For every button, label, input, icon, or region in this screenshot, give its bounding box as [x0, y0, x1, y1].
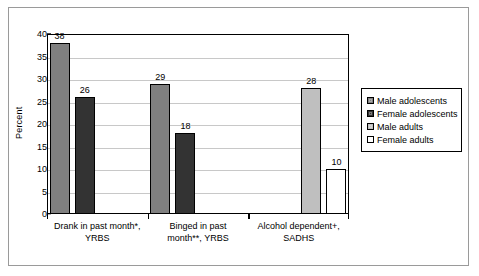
y-tick-label: 5	[29, 187, 47, 196]
x-label-line: Alcohol dependent+,	[257, 221, 339, 231]
chart-frame: Percent 0510152025303540 382629182810 Dr…	[8, 7, 469, 266]
x-axis-labels: Drank in past month*,YRBSBinged in pastm…	[47, 220, 349, 260]
bar-value-label: 26	[69, 85, 101, 95]
legend-swatch-icon	[367, 110, 374, 117]
bar	[175, 133, 195, 214]
legend-item[interactable]: Female adults	[367, 133, 457, 146]
bar	[326, 169, 346, 214]
x-tick-mark	[348, 214, 349, 219]
chart-legend: Male adolescentsFemale adolescentsMale a…	[361, 88, 462, 152]
y-tick-label: 15	[29, 142, 47, 151]
bar-value-label: 29	[144, 72, 176, 82]
legend-item[interactable]: Male adolescents	[367, 94, 457, 107]
bar	[75, 97, 95, 214]
y-tick-label: 35	[29, 52, 47, 61]
x-label-line: SADHS	[283, 233, 314, 243]
bar-value-label: 38	[44, 31, 76, 41]
y-tick-label: 30	[29, 75, 47, 84]
y-tick-label: 20	[29, 120, 47, 129]
legend-label: Male adolescents	[377, 96, 447, 106]
y-tick-label: 25	[29, 97, 47, 106]
y-tick-label: 0	[29, 210, 47, 219]
chart-plot-wrapper: Percent 0510152025303540 382629182810 Dr…	[9, 8, 468, 265]
legend-item[interactable]: Female adolescents	[367, 107, 457, 120]
legend-swatch-icon	[367, 123, 374, 130]
legend-item[interactable]: Male adults	[367, 120, 457, 133]
x-tick-mark	[248, 214, 249, 219]
bar	[50, 43, 70, 214]
y-axis-ticks: 0510152025303540	[23, 34, 47, 214]
legend-label: Male adults	[377, 122, 423, 132]
bar	[301, 88, 321, 214]
bars-layer: 382629182810	[47, 34, 349, 214]
x-label-line: month**, YRBS	[167, 233, 228, 243]
x-label-line: Drank in past month*,	[54, 221, 141, 231]
x-label-line: YRBS	[85, 233, 110, 243]
x-tick-mark	[47, 214, 48, 219]
y-tick-label: 10	[29, 165, 47, 174]
x-label-line: Binged in past	[169, 221, 226, 231]
x-axis-category-label: Alcohol dependent+,SADHS	[238, 220, 359, 244]
bar-value-label: 28	[295, 76, 327, 86]
bar-value-label: 18	[169, 121, 201, 131]
x-tick-mark	[148, 214, 149, 219]
bar	[150, 84, 170, 215]
legend-label: Female adolescents	[377, 109, 458, 119]
legend-swatch-icon	[367, 97, 374, 104]
legend-label: Female adults	[377, 135, 434, 145]
legend-swatch-icon	[367, 136, 374, 143]
bar-value-label: 10	[320, 157, 352, 167]
